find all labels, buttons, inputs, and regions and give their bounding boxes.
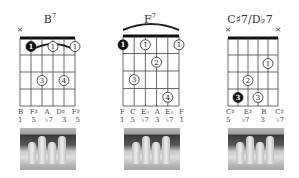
interval-degrees-row: 5♭73♭7 xyxy=(226,116,284,124)
svg-text:2: 2 xyxy=(154,59,158,67)
note-names-row: BF♯AD♯F♯ xyxy=(18,108,80,116)
chord-grid: 111234 xyxy=(100,0,200,120)
finger-shape xyxy=(256,142,264,164)
finger-shape xyxy=(152,142,160,164)
chord-note-labels: C♯E♯BC♯5♭73♭7 xyxy=(226,108,284,124)
svg-text:3: 3 xyxy=(256,94,260,102)
chord-note-labels: BF♯AD♯F♯15♭735 xyxy=(18,108,80,124)
hand-photo xyxy=(20,128,76,170)
svg-text:1: 1 xyxy=(29,42,34,51)
chord-grid: ×11134 xyxy=(0,0,100,120)
interval-degrees-row: 15♭735 xyxy=(18,116,80,124)
finger-shape xyxy=(48,142,56,164)
note-names-row: FCE♭AE♭F xyxy=(120,108,184,116)
hand-photo xyxy=(228,128,284,170)
svg-text:4: 4 xyxy=(166,94,171,102)
svg-text:1: 1 xyxy=(177,41,181,49)
finger-shape xyxy=(246,136,254,164)
svg-text:1: 1 xyxy=(143,41,147,49)
svg-text:3: 3 xyxy=(40,77,44,85)
svg-text:1: 1 xyxy=(73,43,77,51)
chord-csharp7-dflat7: C♯7/D♭7 ××1233 C♯E♯BC♯5♭73♭7 xyxy=(200,0,299,178)
muted-string-icon: × xyxy=(17,25,24,34)
note-names-row: C♯E♯BC♯ xyxy=(226,108,284,116)
finger-shape xyxy=(58,136,66,164)
muted-string-icon: × xyxy=(275,25,282,34)
svg-text:1: 1 xyxy=(266,60,270,68)
svg-text:3: 3 xyxy=(132,76,136,84)
interval-degrees-row: 15♭73♭71 xyxy=(120,116,184,124)
muted-string-icon: × xyxy=(225,25,232,34)
svg-text:1: 1 xyxy=(51,43,55,51)
chord-b7: B7 ×11134 BF♯AD♯F♯15♭735 xyxy=(0,0,100,178)
hand-photo xyxy=(124,128,180,170)
svg-text:3: 3 xyxy=(236,93,241,102)
chord-f7: F7 111234 FCE♭AE♭F15♭73♭71 xyxy=(100,0,200,178)
finger-shape xyxy=(142,136,150,164)
svg-text:1: 1 xyxy=(121,40,126,49)
svg-text:2: 2 xyxy=(246,77,250,85)
svg-text:4: 4 xyxy=(62,77,67,85)
barre-arc xyxy=(123,24,179,30)
finger-shape xyxy=(236,142,244,164)
finger-shape xyxy=(266,136,274,164)
finger-shape xyxy=(162,136,170,164)
finger-shape xyxy=(132,142,140,164)
chord-note-labels: FCE♭AE♭F15♭73♭71 xyxy=(120,108,184,124)
finger-shape xyxy=(38,136,46,164)
finger-shape xyxy=(28,142,36,164)
chord-grid: ××1233 xyxy=(200,0,299,120)
